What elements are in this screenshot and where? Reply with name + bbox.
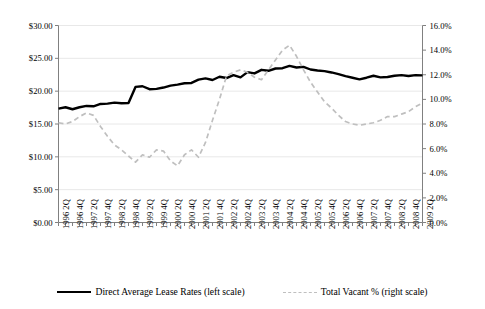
- axis-label-bottom: 2001 4Q: [216, 199, 225, 229]
- axis-label-bottom: 2007 4Q: [384, 199, 393, 229]
- solid-line-swatch: [57, 291, 91, 293]
- legend-label-lease-rates: Direct Average Lease Rates (left scale): [95, 287, 244, 297]
- axis-label-right: 16.0%: [430, 21, 452, 30]
- series-line-lease-rates: [59, 66, 423, 109]
- axis-label-bottom: 2008 2Q: [398, 199, 407, 229]
- axis-label-right: 14.0%: [430, 46, 452, 55]
- axis-label-bottom: 2005 4Q: [328, 199, 337, 229]
- axis-label-bottom: 2005 2Q: [314, 199, 323, 229]
- axis-label-bottom: 2009 2Q: [426, 199, 435, 229]
- axis-label-bottom: 2004 2Q: [286, 199, 295, 229]
- axis-label-right: 12.0%: [430, 70, 452, 79]
- axis-label-bottom: 1999 2Q: [146, 199, 155, 229]
- axis-label-bottom: 2004 4Q: [300, 199, 309, 229]
- axis-label-bottom: 1996 4Q: [76, 199, 85, 229]
- axis-label-left: $0.00: [33, 218, 52, 227]
- axis-label-bottom: 1998 2Q: [118, 199, 127, 229]
- axis-label-bottom: 1997 2Q: [90, 199, 99, 229]
- axis-label-left: $25.00: [29, 54, 53, 63]
- axis-label-bottom: 1997 4Q: [104, 199, 113, 229]
- axis-label-left: $30.00: [29, 21, 53, 30]
- axis-label-bottom: 2001 2Q: [202, 199, 211, 229]
- axis-label-bottom: 1996 2Q: [62, 199, 71, 229]
- axis-label-right: 10.0%: [430, 95, 452, 104]
- axis-label-bottom: 2007 2Q: [370, 199, 379, 229]
- axis-label-bottom: 2003 4Q: [272, 199, 281, 229]
- axis-label-left: $10.00: [29, 153, 53, 162]
- axis-label-left: $20.00: [29, 87, 53, 96]
- axis-label-bottom: 2002 4Q: [244, 199, 253, 229]
- legend-label-vacancy: Total Vacant % (right scale): [321, 287, 428, 297]
- chart-plot-area: [0, 0, 485, 309]
- legend-item-lease-rates: Direct Average Lease Rates (left scale): [57, 287, 244, 297]
- axis-label-bottom: 2006 2Q: [342, 199, 351, 229]
- chart-legend: Direct Average Lease Rates (left scale) …: [0, 283, 485, 301]
- axis-label-right: 4.0%: [430, 169, 448, 178]
- axis-label-bottom: 2003 2Q: [258, 199, 267, 229]
- axis-label-left: $15.00: [29, 120, 53, 129]
- axis-label-bottom: 1999 4Q: [160, 199, 169, 229]
- axis-label-bottom: 2002 2Q: [230, 199, 239, 229]
- axis-label-bottom: 2000 4Q: [188, 199, 197, 229]
- axis-label-left: $5.00: [33, 185, 52, 194]
- axis-label-bottom: 1998 4Q: [132, 199, 141, 229]
- dashed-line-swatch: [283, 292, 317, 293]
- axis-label-bottom: 2008 4Q: [412, 199, 421, 229]
- legend-item-vacancy: Total Vacant % (right scale): [283, 287, 428, 297]
- axis-label-bottom: 2000 2Q: [174, 199, 183, 229]
- axis-label-right: 6.0%: [430, 144, 448, 153]
- axis-label-right: 8.0%: [430, 120, 448, 129]
- series-line-vacancy: [59, 45, 423, 166]
- axis-label-bottom: 2006 4Q: [356, 199, 365, 229]
- chart-container: $0.00$5.00$10.00$15.00$20.00$25.00$30.00…: [0, 0, 485, 309]
